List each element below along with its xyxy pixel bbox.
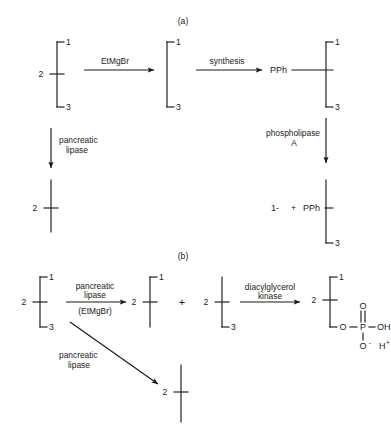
arrow-label-pancreatic-diag-line1: pancreatic	[59, 350, 98, 360]
anionic-oxygen-label: O	[359, 341, 366, 351]
position-label-2-b4: 2	[312, 295, 317, 305]
proton-label: H	[379, 341, 386, 351]
phosphorus-label: P	[360, 322, 366, 332]
position-label-2-a-prod-left: 2	[33, 203, 38, 213]
position-label-1-b1: 1	[49, 272, 54, 282]
reaction-arrow-pancreatic-lipase-diagonal: pancreatic lipase	[59, 322, 158, 384]
arrow-label-pancreatic-a-line1: pancreatic	[59, 135, 98, 145]
position-label-3-a3: 3	[335, 102, 340, 112]
proton-charge-label: +	[386, 339, 390, 346]
released-label-1-minus: 1-	[271, 203, 279, 213]
structure-a-product-right: 1- + PPh 3	[271, 180, 340, 248]
reaction-arrow-etmgbr: EtMgBr	[84, 56, 154, 70]
anionic-charge-label: -	[369, 339, 371, 346]
position-label-3-a1: 3	[66, 102, 71, 112]
panel-label-b: (b)	[178, 251, 189, 261]
position-label-2-a1: 2	[39, 69, 44, 79]
arrow-label-kinase-line2: kinase	[258, 291, 283, 301]
phosphoryl-oxygen-label: O	[359, 301, 366, 311]
reaction-arrow-diacylglycerol-kinase: diacylglycerol kinase	[240, 282, 300, 302]
ester-oxygen-label: O	[339, 322, 346, 332]
panel-label-a: (a)	[178, 16, 189, 26]
position-label-3-a2: 3	[176, 102, 181, 112]
plus-sign-a-product: +	[291, 203, 296, 213]
arrow-label-synthesis: synthesis	[210, 56, 245, 66]
arrow-label-phospholipase-line2: A	[291, 138, 297, 148]
arrow-label-etmgbr-b: (EtMgBr)	[78, 306, 112, 316]
structure-a1-glycerol: 1 2 3	[39, 37, 71, 112]
position-label-2-b2: 2	[132, 297, 137, 307]
structure-b3-glycerol: 2 3	[204, 277, 236, 332]
position-label-3-a-prod-right: 3	[335, 238, 340, 248]
structure-a2-glycerol: 1 3	[167, 37, 181, 112]
released-label-pph: PPh	[303, 203, 320, 213]
hydroxyl-label: OH	[377, 322, 391, 332]
structure-b1-glycerol: 1 2 3	[22, 272, 54, 332]
arrow-label-pancreatic-b-line2: lipase	[84, 290, 106, 300]
reaction-arrow-pancreatic-lipase-b: pancreatic lipase (EtMgBr)	[66, 281, 126, 316]
scheme-canvas: (a) (b) 1 2 3 EtMgBr 1 3 synthesis PPh 1	[0, 0, 391, 435]
arrow-label-etmgbr: EtMgBr	[101, 56, 129, 66]
arrow-label-phospholipase-line1: phospholipase	[266, 128, 320, 138]
position-label-3-b3: 3	[231, 322, 236, 332]
position-label-1-b2: 1	[159, 272, 164, 282]
position-label-1-a3: 1	[335, 37, 340, 47]
phosphate-group-b4: O P O OH O - H +	[339, 301, 390, 351]
reaction-arrow-phospholipase-a: phospholipase A	[266, 118, 326, 163]
reaction-arrow-synthesis: synthesis	[196, 56, 262, 70]
reaction-arrow-pancreatic-lipase-a: pancreatic lipase	[51, 128, 98, 168]
position-label-2-b1: 2	[22, 297, 27, 307]
position-label-2-b3: 2	[204, 297, 209, 307]
structure-a3-glycerol-pph: PPh 1 3	[270, 37, 340, 112]
structure-b-product-bottom: 2	[163, 365, 188, 422]
arrow-label-pancreatic-diag-line2: lipase	[68, 360, 90, 370]
plus-sign-b: +	[179, 296, 185, 308]
position-label-1-b4: 1	[339, 272, 344, 282]
position-label-1-a2: 1	[176, 37, 181, 47]
substituent-label-pph-a3: PPh	[270, 65, 287, 75]
arrow-label-pancreatic-a-line2: lipase	[66, 145, 88, 155]
structure-a-product-left: 2	[33, 180, 58, 232]
structure-b2-glycerol: 1 2	[132, 272, 164, 327]
position-label-1-a1: 1	[66, 37, 71, 47]
position-label-3-b1: 3	[49, 322, 54, 332]
reaction-scheme-figure: (a) (b) 1 2 3 EtMgBr 1 3 synthesis PPh 1	[0, 0, 391, 435]
structure-b4-phosphatidic-acid: 1 2 O P O OH O - H +	[312, 272, 391, 351]
position-label-2-b-prod: 2	[163, 387, 168, 397]
